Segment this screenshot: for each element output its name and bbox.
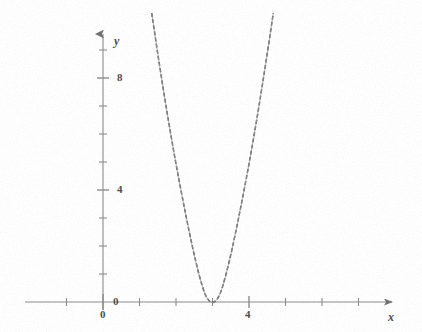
coordinate-plot [0,0,422,332]
x-tick-label-0: 0 [100,309,106,320]
graph-figure: 8 4 0 0 4 y x [0,0,422,332]
parabola-curve [152,13,274,302]
origin-label: 0 [113,296,119,307]
x-axis-label: x [388,311,394,323]
y-axis-label: y [114,35,119,47]
y-tick-label-8: 8 [117,72,123,83]
x-tick-label-4: 4 [245,309,251,320]
y-tick-label-4: 4 [117,184,123,195]
parabola-curve-underlay [152,13,274,302]
